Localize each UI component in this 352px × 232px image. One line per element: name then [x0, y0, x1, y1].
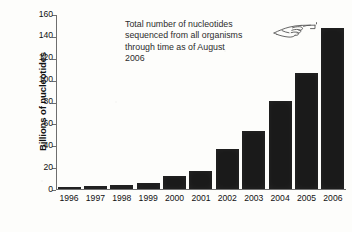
bar-2006 [321, 28, 344, 189]
x-label-2003: 2003 [242, 193, 266, 203]
bar-1999 [137, 183, 160, 189]
x-label-2005: 2005 [295, 193, 319, 203]
x-label-1999: 1999 [136, 193, 160, 203]
bar-2003 [242, 131, 265, 189]
y-tick-label: 80 [43, 96, 53, 106]
annotation-callout: Total number of nucleotidessequenced fro… [125, 19, 275, 65]
y-tick-label: 160 [39, 9, 53, 19]
x-label-2006: 2006 [321, 193, 345, 203]
x-label-2000: 2000 [163, 193, 187, 203]
x-label-2001: 2001 [189, 193, 213, 203]
x-axis-labels: 1996199719981999200020012002200320042005… [57, 193, 345, 203]
x-label-1997: 1997 [83, 193, 107, 203]
y-tick-label: 20 [43, 162, 53, 172]
y-tick-label: 60 [43, 118, 53, 128]
y-tick-label: 0 [48, 184, 53, 194]
y-tick-label: 140 [39, 30, 53, 40]
y-tick-label: 120 [39, 52, 53, 62]
y-tick-label: 100 [39, 74, 53, 84]
annotation-line-1: Total number of nucleotides [125, 19, 275, 30]
x-label-1996: 1996 [57, 193, 81, 203]
y-tick-label: 40 [43, 140, 53, 150]
pointing-hand-right-icon [272, 18, 318, 42]
x-label-2004: 2004 [268, 193, 292, 203]
x-label-1998: 1998 [110, 193, 134, 203]
bar-2005 [295, 73, 318, 188]
bar-2004 [269, 101, 292, 189]
x-label-2002: 2002 [215, 193, 239, 203]
annotation-line-4: 2006 [125, 53, 275, 64]
bar-1996 [58, 187, 81, 188]
bar-2000 [163, 176, 186, 189]
bar-2002 [216, 149, 239, 189]
annotation-line-2: sequenced from all organisms [125, 30, 275, 41]
bar-slot [57, 16, 81, 189]
bar-1998 [110, 185, 133, 188]
annotation-line-3: through time as of August [125, 42, 275, 53]
bar-1997 [84, 186, 107, 188]
bar-slot [83, 16, 107, 189]
x-axis-line [56, 189, 346, 190]
bar-slot [321, 16, 345, 189]
chart-figure: Billions of nucleotides 0204060801001201… [0, 0, 352, 232]
bar-2001 [189, 171, 212, 189]
